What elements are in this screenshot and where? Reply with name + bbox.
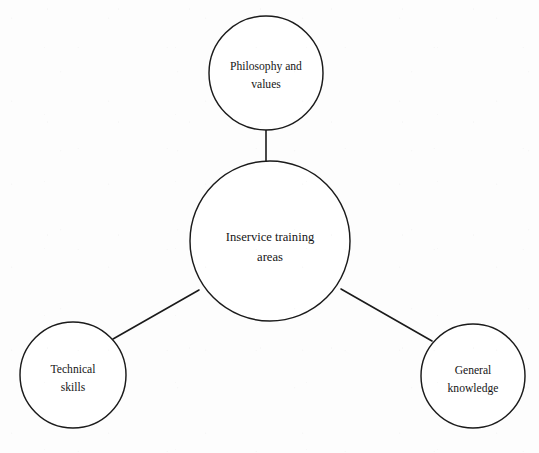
node-inservice-training-areas[interactable]: Inservice training areas	[190, 161, 350, 321]
general-knowledge-label-line1: General	[455, 364, 492, 377]
node-technical-skills[interactable]: Technical skills	[20, 322, 126, 428]
inservice-training-areas-label-line2: areas	[257, 250, 283, 264]
connector-center-to-general-knowledge	[341, 289, 432, 341]
inservice-training-areas-label-line1: Inservice training	[226, 230, 315, 244]
philosophy-and-values-label-line2: values	[251, 78, 281, 91]
technical-skills-label-line2: skills	[61, 381, 86, 394]
philosophy-and-values-label-line1: Philosophy and	[230, 60, 302, 73]
diagram-canvas: Philosophy and values Inservice training…	[0, 0, 539, 453]
node-philosophy-and-values[interactable]: Philosophy and values	[209, 16, 323, 130]
general-knowledge-label-line2: knowledge	[448, 382, 499, 395]
node-general-knowledge[interactable]: General knowledge	[421, 324, 525, 428]
connector-center-to-technical-skills	[113, 290, 199, 339]
philosophy-and-values-circle[interactable]	[209, 16, 323, 130]
technical-skills-label-line1: Technical	[51, 363, 96, 376]
hub-and-spoke-diagram: Philosophy and values Inservice training…	[0, 0, 539, 453]
